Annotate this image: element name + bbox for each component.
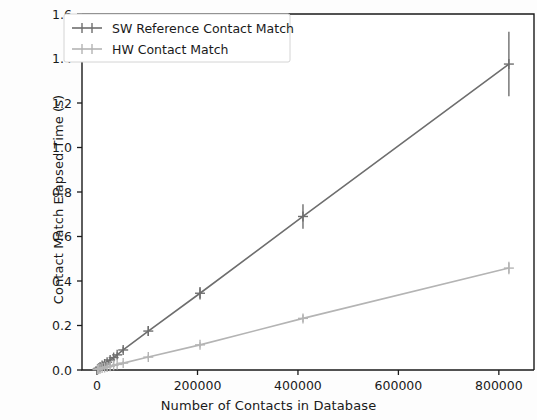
x-tick-label: 600000 xyxy=(375,378,423,393)
y-axis-label: Contact Match Elapsed Time (s) xyxy=(51,50,66,350)
x-tick-label: 200000 xyxy=(174,378,222,393)
y-tick-label: 0.0 xyxy=(52,363,72,378)
x-tick-label: 800000 xyxy=(475,378,523,393)
x-axis-label: Number of Contacts in Database xyxy=(0,398,537,413)
legend-label: SW Reference Contact Match xyxy=(112,21,294,36)
x-tick-label: 400000 xyxy=(274,378,322,393)
chart-figure: 02000004000006000008000000.00.20.40.60.8… xyxy=(0,0,537,420)
line-chart-plot: 02000004000006000008000000.00.20.40.60.8… xyxy=(0,0,537,420)
x-tick-label: 0 xyxy=(93,378,101,393)
legend-label: HW Contact Match xyxy=(112,42,228,57)
chart-legend: SW Reference Contact MatchHW Contact Mat… xyxy=(64,14,294,62)
